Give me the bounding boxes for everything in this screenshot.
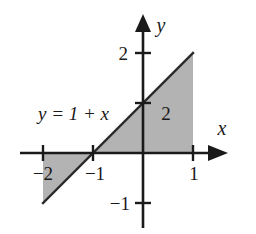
x-tick-label-1: 1	[189, 163, 199, 184]
y-tick-label-minus-1: −1	[110, 193, 130, 214]
y-tick-label-2: 2	[119, 43, 129, 64]
region-area-label: 2	[161, 103, 171, 124]
equation-label: y = 1 + x	[36, 103, 110, 124]
coordinate-plane-svg: −2 −1 1 2 −1 x y y = 1 + x 2	[0, 0, 256, 234]
y-axis-arrow-icon	[135, 14, 151, 32]
x-axis-label: x	[217, 117, 227, 139]
math-figure: −2 −1 1 2 −1 x y y = 1 + x 2	[0, 0, 256, 234]
x-axis-arrow-icon	[208, 145, 228, 161]
y-axis-label: y	[155, 14, 166, 37]
x-tick-label-minus-2: −2	[33, 163, 53, 184]
x-tick-label-minus-1: −1	[85, 163, 105, 184]
